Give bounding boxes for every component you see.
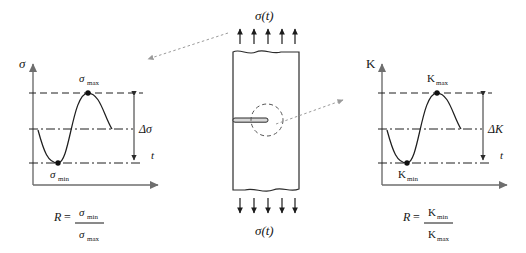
stress-min-label: σ min xyxy=(50,168,69,183)
delta-sigma-label: Δσ xyxy=(138,122,153,136)
svg-text:K: K xyxy=(398,168,406,180)
delta-k-label: ΔK xyxy=(487,122,504,136)
sif-ratio-formula: R = K min K max xyxy=(402,206,453,243)
stress-intensity-cycle-plot: K t K max K min ΔK R = K min K max xyxy=(366,56,507,243)
svg-text:K: K xyxy=(428,228,436,240)
cracked-plate-specimen: σ(t) σ(t) xyxy=(233,8,299,238)
svg-text:max: max xyxy=(437,235,450,243)
sif-waveform-curve xyxy=(387,93,461,163)
sif-min-label: K min xyxy=(398,168,418,183)
top-load-arrows xyxy=(240,29,295,44)
svg-text:max: max xyxy=(87,235,100,243)
sif-max-marker xyxy=(434,90,439,95)
stress-cycle-plot: σ t σ max σ min Δσ R = σ min σ max xyxy=(19,56,158,243)
stress-min-marker xyxy=(55,160,60,165)
svg-text:min: min xyxy=(407,175,418,183)
fatigue-cycle-figure: σ t σ max σ min Δσ R = σ min σ max xyxy=(0,0,526,253)
svg-text:K: K xyxy=(427,72,435,84)
stress-waveform-curve xyxy=(38,93,112,163)
sif-min-marker xyxy=(404,160,409,165)
edge-crack xyxy=(233,118,268,122)
svg-text:σ(t): σ(t) xyxy=(255,223,274,238)
sif-max-label: K max xyxy=(427,72,449,87)
svg-text:R: R xyxy=(402,210,411,224)
bottom-load-label: σ(t) xyxy=(255,223,274,238)
sif-plot-x-axis-label: t xyxy=(500,149,504,161)
svg-text:K: K xyxy=(428,206,436,218)
svg-text:σ: σ xyxy=(79,228,85,240)
leader-to-stress-plot xyxy=(148,33,228,59)
svg-text:min: min xyxy=(437,213,448,221)
stress-max-marker xyxy=(85,90,90,95)
svg-text:σ: σ xyxy=(79,72,85,84)
bottom-load-arrows xyxy=(240,198,295,213)
svg-text:max: max xyxy=(436,79,449,87)
svg-text:min: min xyxy=(58,175,69,183)
top-load-label: σ(t) xyxy=(255,8,274,23)
stress-ratio-formula: R = σ min σ max xyxy=(53,206,104,243)
leader-to-stress-intensity-plot xyxy=(276,100,343,124)
stress-plot-y-axis-label: σ xyxy=(19,56,26,71)
stress-max-label: σ max xyxy=(79,72,100,87)
svg-text:=: = xyxy=(64,210,71,224)
svg-text:min: min xyxy=(87,213,98,221)
svg-text:σ: σ xyxy=(50,168,56,180)
svg-text:max: max xyxy=(87,79,100,87)
sif-plot-y-axis-label: K xyxy=(366,56,376,71)
svg-text:=: = xyxy=(413,210,420,224)
svg-text:σ: σ xyxy=(79,206,85,218)
stress-plot-x-axis-label: t xyxy=(151,149,155,161)
svg-text:σ(t): σ(t) xyxy=(255,8,274,23)
svg-text:R: R xyxy=(53,210,62,224)
